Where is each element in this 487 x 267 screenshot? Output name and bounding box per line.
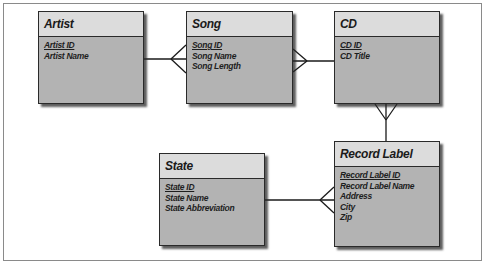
attribute: CD Title xyxy=(340,51,439,62)
attribute-list: Song ID Song Name Song Length xyxy=(187,37,292,72)
attribute-list: CD ID CD Title xyxy=(335,37,439,61)
entity-artist[interactable]: Artist Artist ID Artist Name xyxy=(38,11,144,104)
entity-title: State xyxy=(160,154,264,179)
entity-title: Artist xyxy=(39,12,143,37)
attribute-primary-key: Artist ID xyxy=(44,40,143,51)
entity-title: Record Label xyxy=(335,142,439,167)
entity-title: CD xyxy=(335,12,439,37)
attribute-primary-key: State ID xyxy=(165,182,264,193)
entity-cd[interactable]: CD CD ID CD Title xyxy=(334,11,440,104)
entity-title: Song xyxy=(187,12,292,37)
attribute-primary-key: Song ID xyxy=(192,40,292,51)
entity-state[interactable]: State State ID State Name State Abbrevia… xyxy=(159,153,265,246)
attribute-list: Record Label ID Record Label Name Addres… xyxy=(335,167,439,223)
attribute-list: Artist ID Artist Name xyxy=(39,37,143,61)
attribute: State Name xyxy=(165,193,264,204)
attribute: Song Name xyxy=(192,51,292,62)
entity-record-label[interactable]: Record Label Record Label ID Record Labe… xyxy=(334,141,440,247)
attribute: Song Length xyxy=(192,61,292,72)
attribute: Artist Name xyxy=(44,51,143,62)
attribute: State Abbreviation xyxy=(165,203,264,214)
attribute: Record Label Name xyxy=(340,181,439,192)
attribute: City xyxy=(340,202,439,213)
attribute: Zip xyxy=(340,212,439,223)
entity-song[interactable]: Song Song ID Song Name Song Length xyxy=(186,11,293,104)
attribute-primary-key: CD ID xyxy=(340,40,439,51)
attribute-primary-key: Record Label ID xyxy=(340,170,439,181)
attribute: Address xyxy=(340,191,439,202)
attribute-list: State ID State Name State Abbreviation xyxy=(160,179,264,214)
